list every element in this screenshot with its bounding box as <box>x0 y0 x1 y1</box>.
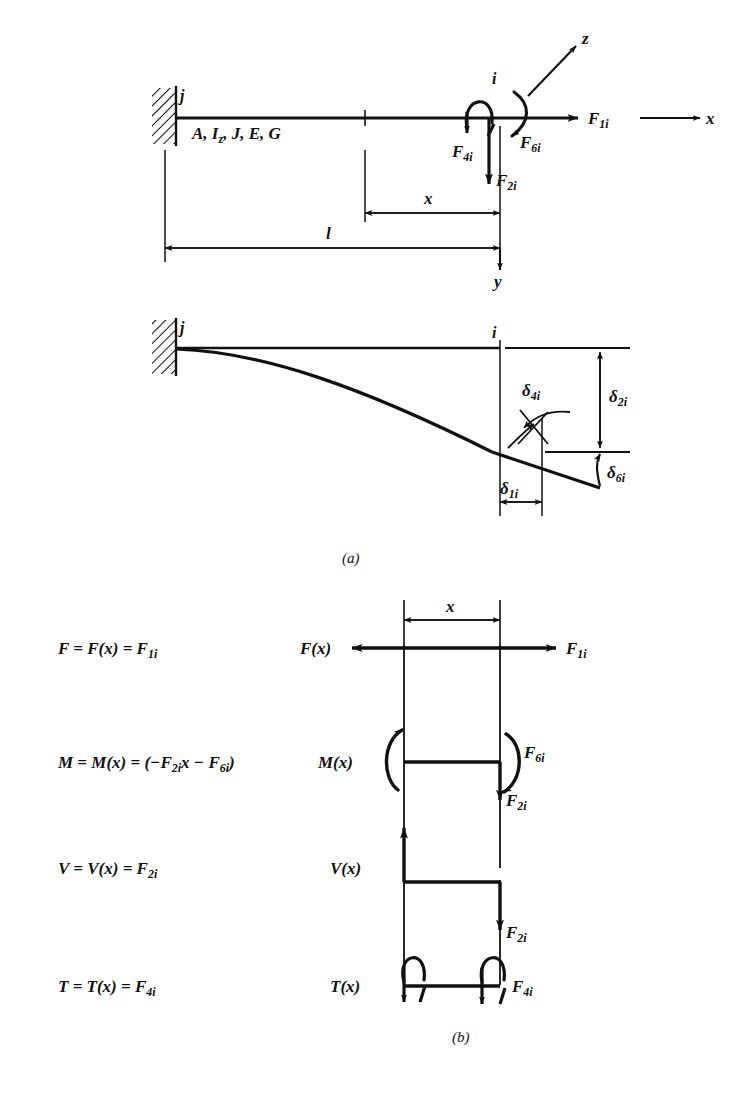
moment-left-arc <box>386 730 402 790</box>
force-label-F6i-top: F6i <box>519 133 541 155</box>
equation-moment: M = M(x) = (−F2ix − F6i) <box>57 753 235 775</box>
shear-end-force-label: F2i <box>505 923 527 945</box>
node-label-i-top: i <box>492 70 497 87</box>
y-axis-label: y <box>492 272 502 291</box>
deflected-shape-curve <box>176 349 492 452</box>
z-axis-label: z <box>581 29 589 48</box>
fixed-support-top <box>152 86 176 146</box>
dimension-label-x-panel-b: x <box>445 597 455 616</box>
dimension-label-l: l <box>326 224 331 243</box>
z-axis-arrow <box>528 46 576 96</box>
fixed-support-bottom <box>152 318 176 376</box>
bending-moment-arrow-top <box>512 92 527 136</box>
node-label-i-bottom: i <box>492 324 497 341</box>
axial-end-force-label: F1i <box>565 639 587 661</box>
deflection-label-delta4i: δ4i <box>522 381 541 403</box>
torsion-function-label: T(x) <box>330 977 360 996</box>
deflection-label-delta2i: δ2i <box>609 387 628 409</box>
twist-indicator-delta4i <box>508 410 570 448</box>
deflection-label-delta6i: δ6i <box>607 463 626 485</box>
moment-function-label: M(x) <box>317 753 353 772</box>
caption-a: (a) <box>342 550 360 567</box>
force-label-F1i-top: F1i <box>587 109 609 131</box>
moment-section-shear-label: F2i <box>505 791 527 813</box>
beam-element-figure: j A, Iz, J, E, G i F4i F6i F1i x z F2i x <box>0 0 744 1109</box>
equation-torsion: T = T(x) = F4i <box>58 977 156 999</box>
rotation-arc-delta6i <box>597 454 600 486</box>
shear-function-label: V(x) <box>330 859 361 878</box>
beam-properties-label: A, Iz, J, E, G <box>191 124 281 146</box>
torsion-right-loop <box>481 958 505 1004</box>
caption-b: (b) <box>452 1029 470 1046</box>
deflection-label-delta1i: δ1i <box>500 479 519 501</box>
torsion-end-force-label: F4i <box>511 977 533 999</box>
moment-right-arc <box>504 734 519 792</box>
node-label-j-bottom: j <box>177 319 185 337</box>
torsion-left-loop <box>403 958 425 1002</box>
force-label-F4i-top: F4i <box>451 142 473 164</box>
node-label-j-top: j <box>177 87 185 105</box>
axial-function-label: F(x) <box>299 639 331 658</box>
x-axis-label: x <box>705 109 715 128</box>
moment-end-force-label: F6i <box>523 743 545 765</box>
equation-axial: F = F(x) = F1i <box>57 639 158 661</box>
force-label-F2i-top: F2i <box>495 171 517 193</box>
dimension-label-x-top: x <box>423 189 433 208</box>
equation-shear: V = V(x) = F2i <box>58 859 158 881</box>
